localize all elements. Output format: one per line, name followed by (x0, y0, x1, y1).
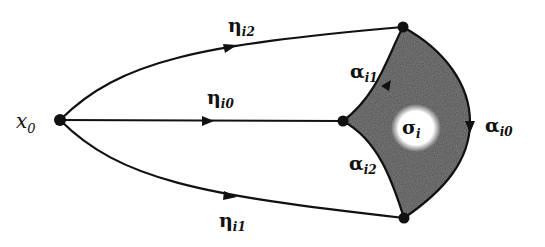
label-eta-i2: ηi2 (228, 14, 255, 39)
node-mid (338, 116, 349, 127)
node-bottom (399, 213, 410, 224)
node-x0 (54, 114, 66, 126)
path-eta-i0 (60, 120, 343, 121)
arrow-eta-i0-icon (202, 116, 214, 126)
label-alpha-i0: αi0 (485, 114, 513, 139)
label-eta-i1: ηi1 (219, 209, 246, 234)
label-x0: x0 (16, 109, 36, 136)
arrow-eta-i2-icon (223, 44, 237, 53)
label-eta-i0: ηi0 (207, 86, 234, 111)
label-alpha-i1: αi1 (350, 60, 378, 85)
label-alpha-i2: αi2 (349, 152, 377, 177)
homotopy-diagram: x0 ηi2 ηi0 ηi1 αi1 αi2 αi0 σi (0, 0, 545, 247)
node-top (398, 22, 409, 33)
